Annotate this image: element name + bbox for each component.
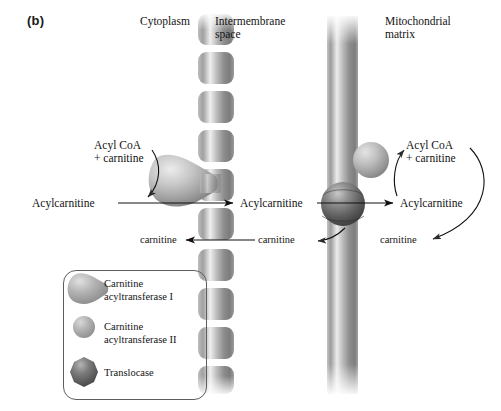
region-label-line2: matrix <box>385 28 415 40</box>
legend-label-line1: Carnitine <box>104 278 143 289</box>
carnitine-acyltransferase-II-enzyme <box>353 142 389 178</box>
region-label-intermembrane-space: Intermembrane space <box>215 15 285 41</box>
species-line1: Acyl CoA <box>94 139 141 151</box>
species-acylcarnitine-intermembrane-space: Acylcarnitine <box>240 197 303 210</box>
legend-label-line2: acyltransferase I <box>104 291 173 302</box>
membrane-segment <box>198 130 234 162</box>
species-line1: Acyl CoA <box>406 139 453 151</box>
species-carnitine-cytoplasm: carnitine <box>140 234 177 246</box>
legend-label-translocase: Translocase <box>104 366 154 379</box>
legend-label-carnitine-acyltransferase-II: Carnitine acyltransferase II <box>104 320 177 347</box>
region-label-mitochondrial-matrix: Mitochondrial matrix <box>385 15 451 41</box>
translocase-protein <box>321 182 365 226</box>
species-carnitine-matrix: carnitine <box>380 234 417 246</box>
region-label-line1: Mitochondrial <box>385 15 451 27</box>
panel-letter: (b) <box>27 14 44 29</box>
carnitine-shuttle-figure: (b) Cytoplasm Intermembrane space Mitoch… <box>0 0 501 411</box>
species-acyl-coa-carnitine-cytoplasm: Acyl CoA + carnitine <box>94 139 144 165</box>
region-label-line2: space <box>215 28 241 40</box>
legend-label-line2: acyltransferase II <box>104 334 177 345</box>
membrane-segment <box>198 91 234 123</box>
legend-label-line1: Translocase <box>104 367 154 378</box>
species-acylcarnitine-cytoplasm: Acylcarnitine <box>32 197 95 210</box>
legend-label-line1: Carnitine <box>104 321 143 332</box>
region-label-line1: Intermembrane <box>215 15 285 27</box>
species-line2: + carnitine <box>94 152 144 164</box>
region-label-cytoplasm: Cytoplasm <box>140 15 190 28</box>
species-line2: + carnitine <box>406 152 456 164</box>
membrane-segment <box>198 52 234 84</box>
species-acylcarnitine-matrix: Acylcarnitine <box>400 197 463 210</box>
species-carnitine-intermembrane-space: carnitine <box>258 234 295 246</box>
legend-label-carnitine-acyltransferase-I: Carnitine acyltransferase I <box>104 277 173 304</box>
membrane-segment <box>198 208 234 240</box>
species-acyl-coa-carnitine-matrix: Acyl CoA + carnitine <box>406 139 456 165</box>
arrow-acylcarnitine-to-acylcoa-right <box>394 150 404 196</box>
